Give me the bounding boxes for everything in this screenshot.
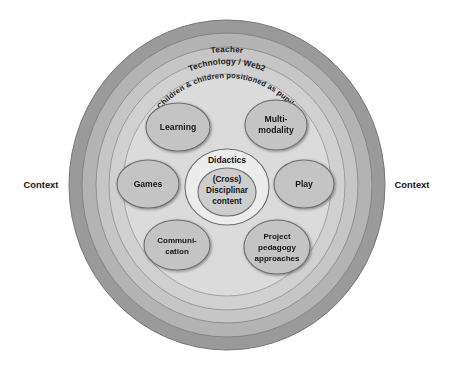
node-project-pedagogy-label-2: pedagogy xyxy=(258,243,296,252)
node-games: Games xyxy=(117,160,179,208)
node-multimodality-label-2: modality xyxy=(258,125,294,135)
center-core-label-3: content xyxy=(212,197,242,206)
didactics-model-diagram: Teacher Technology / Web2 Children & chi… xyxy=(0,0,453,371)
node-multimodality-label-1: Multi- xyxy=(265,114,288,124)
node-multimodality: Multi- modality xyxy=(245,100,307,150)
node-communication-label-2: cation xyxy=(165,247,189,256)
context-label-right: Context xyxy=(395,179,430,190)
node-games-label: Games xyxy=(134,179,163,189)
concentric-model-svg: Teacher Technology / Web2 Children & chi… xyxy=(0,0,453,371)
node-play-label: Play xyxy=(295,179,313,189)
node-learning: Learning xyxy=(146,103,210,151)
node-communication-label-1: Communi- xyxy=(157,236,197,245)
center-core-label-1: (Cross) xyxy=(213,175,242,184)
node-learning-label: Learning xyxy=(160,122,196,132)
center-core-label-2: Disciplinar xyxy=(206,186,249,195)
node-communication: Communi- cation xyxy=(144,220,210,270)
node-project-pedagogy-label-3: approaches xyxy=(255,254,300,263)
node-project-pedagogy: Project pedagogy approaches xyxy=(244,220,310,274)
node-project-pedagogy-label-1: Project xyxy=(263,232,290,241)
center-outer-label: Didactics xyxy=(208,155,246,165)
context-label-left: Context xyxy=(24,179,59,190)
center-didactics: Didactics (Cross) Disciplinar content xyxy=(185,149,269,225)
node-play: Play xyxy=(274,160,334,208)
node-communication-shape xyxy=(144,220,210,270)
